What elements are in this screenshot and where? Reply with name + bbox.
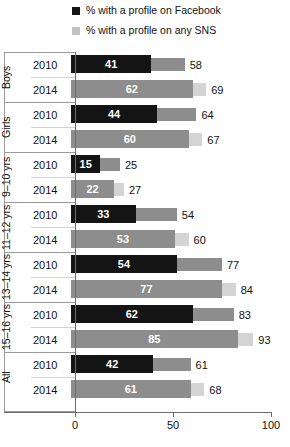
- bar-value-sns: 60: [194, 232, 206, 247]
- chart-row: 20104158: [0, 52, 282, 77]
- row-year-label: 2014: [33, 327, 57, 352]
- row-year-label: 2010: [33, 52, 57, 77]
- bar-value-sns: 68: [209, 382, 221, 397]
- bar-value-sns: 61: [196, 357, 208, 372]
- bar-facebook: [71, 80, 193, 98]
- x-axis-line: [4, 412, 271, 413]
- row-bars: 1525: [71, 152, 282, 177]
- legend-label-sns: % with a profile on any SNS: [86, 25, 216, 36]
- row-year-label: 2014: [33, 227, 57, 252]
- bar-facebook: [71, 305, 193, 323]
- x-axis-tick: [271, 412, 272, 417]
- bar-chart: Boys2010415820146269Girls201044642014606…: [0, 46, 290, 447]
- bar-facebook: [71, 230, 175, 248]
- row-year-label: 2010: [33, 102, 57, 127]
- row-bars: 4261: [71, 352, 282, 377]
- x-axis-tick-label: 50: [167, 419, 179, 431]
- bar-facebook: [71, 355, 153, 373]
- row-bars: 7784: [71, 277, 282, 302]
- bar-facebook: [71, 380, 191, 398]
- bar-value-sns: 69: [211, 82, 223, 97]
- legend-swatch-sns-icon: [72, 27, 80, 35]
- chart-row: 20142227: [0, 177, 282, 202]
- bar-facebook: [71, 280, 222, 298]
- x-axis-tick-label: 0: [72, 419, 78, 431]
- bar-facebook: [71, 205, 136, 223]
- row-year-label: 2010: [33, 302, 57, 327]
- bar-value-sns: 58: [190, 57, 202, 72]
- chart-row: 20101525: [0, 152, 282, 177]
- row-bars: 8593: [71, 327, 282, 352]
- chart-row: 20146067: [0, 127, 282, 152]
- chart-row: 20146269: [0, 77, 282, 102]
- x-axis-tick-label: 100: [262, 419, 280, 431]
- bar-value-sns: 25: [125, 157, 137, 172]
- bar-facebook: [71, 180, 114, 198]
- row-bars: 6067: [71, 127, 282, 152]
- row-year-label: 2010: [33, 202, 57, 227]
- bar-value-sns: 54: [182, 207, 194, 222]
- chart-row: 20106283: [0, 302, 282, 327]
- bar-facebook: [71, 130, 189, 148]
- bar-facebook: [71, 105, 157, 123]
- chart-row: 20104464: [0, 102, 282, 127]
- row-bars: 6269: [71, 77, 282, 102]
- row-year-label: 2014: [33, 377, 57, 402]
- row-year-label: 2010: [33, 252, 57, 277]
- row-bars: 5360: [71, 227, 282, 252]
- bar-value-sns: 27: [129, 182, 141, 197]
- bar-facebook: [71, 255, 177, 273]
- chart-row: 20103354: [0, 202, 282, 227]
- x-axis-tick: [173, 412, 174, 417]
- bar-value-sns: 67: [207, 132, 219, 147]
- chart-row: 20148593: [0, 327, 282, 352]
- bar-value-sns: 64: [201, 107, 213, 122]
- bar-facebook: [71, 330, 238, 348]
- legend-item-facebook: % with a profile on Facebook: [72, 5, 221, 16]
- legend-item-sns: % with a profile on any SNS: [72, 25, 216, 36]
- row-year-label: 2014: [33, 77, 57, 102]
- y-axis-line: [75, 52, 76, 412]
- chart-legend: % with a profile on Facebook % with a pr…: [0, 0, 290, 46]
- row-bars: 4158: [71, 52, 282, 77]
- row-year-label: 2010: [33, 152, 57, 177]
- row-bars: 4464: [71, 102, 282, 127]
- row-bars: 3354: [71, 202, 282, 227]
- chart-row: 20146168: [0, 377, 282, 402]
- chart-row: 20147784: [0, 277, 282, 302]
- row-bars: 6168: [71, 377, 282, 402]
- chart-row: 20145360: [0, 227, 282, 252]
- bar-value-sns: 83: [239, 307, 251, 322]
- row-year-label: 2014: [33, 177, 57, 202]
- bar-facebook: [71, 55, 151, 73]
- row-bars: 5477: [71, 252, 282, 277]
- bar-value-sns: 77: [227, 257, 239, 272]
- legend-label-facebook: % with a profile on Facebook: [86, 5, 221, 16]
- row-year-label: 2010: [33, 352, 57, 377]
- chart-row: 20104261: [0, 352, 282, 377]
- row-bars: 6283: [71, 302, 282, 327]
- row-year-label: 2014: [33, 277, 57, 302]
- legend-swatch-facebook-icon: [72, 7, 80, 15]
- row-bars: 2227: [71, 177, 282, 202]
- bar-value-sns: 93: [258, 332, 270, 347]
- chart-row: 20105477: [0, 252, 282, 277]
- row-year-label: 2014: [33, 127, 57, 152]
- bar-value-sns: 84: [241, 282, 253, 297]
- x-axis-tick: [75, 412, 76, 417]
